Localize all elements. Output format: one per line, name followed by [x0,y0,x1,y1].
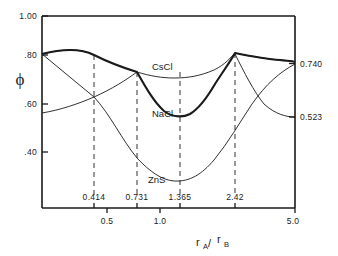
x-tick-label-10: 1.0 [154,216,167,226]
x-axis-title-r-numerator: r [196,236,200,248]
x-tick-label-0414: 0.414 [83,192,106,202]
x-axis-title-sub-b: B [224,240,229,249]
y-axis-title: ϕ [16,70,25,89]
x-tick-label-242: 2.42 [226,192,244,202]
y-tick-label-2: .80 [24,50,37,60]
x-tick-label-1365: 1.365 [169,192,192,202]
y-tick-label-4: .40 [24,147,37,157]
right-label-0740: 0.740 [300,59,322,69]
chart-svg: 1.00 .80 .60 .40 ϕ 0.740 0.523 CsCl [0,0,338,256]
right-label-0523: 0.523 [300,112,322,122]
x-axis-title: r A / r B [196,233,229,251]
curve-envelope-maximum [42,50,295,116]
y-axis-ticks [42,16,48,152]
x-tick-label-0731: 0.731 [126,192,149,202]
curve-label-cscl: CsCl [152,61,173,72]
right-edge-ticks [289,64,295,118]
packing-fraction-figure: 1.00 .80 .60 .40 ϕ 0.740 0.523 CsCl [0,0,338,256]
x-tick-label-50: 5.0 [287,216,300,226]
y-tick-label-1: 1.00 [19,11,37,21]
x-axis-title-slash: / [208,237,212,249]
x-axis-title-r-denominator: r [217,233,221,245]
curve-label-zns: ZnS [148,174,165,185]
x-tick-label-05: 0.5 [101,216,114,226]
y-tick-label-3: .60 [24,99,37,109]
curve-label-nacl: NaCl [152,108,173,119]
